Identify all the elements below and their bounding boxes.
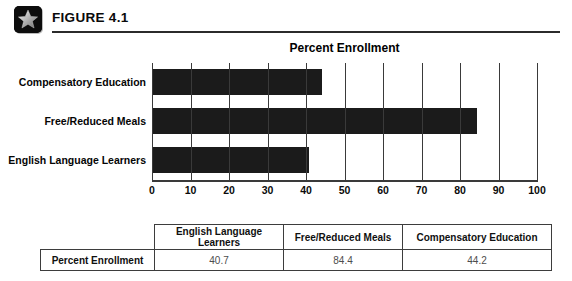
gridline (537, 63, 538, 180)
x-tick-label: 30 (248, 184, 288, 196)
table-header-english-language-learners: English Language Learners (155, 225, 284, 250)
table-row-label: Percent Enrollment (41, 250, 155, 271)
gridline (460, 63, 461, 180)
table-cell-free-reduced-meals: 84.4 (284, 250, 403, 271)
x-tick-label: 60 (363, 184, 403, 196)
star-icon (14, 6, 42, 33)
gridline (383, 63, 384, 180)
gridline (152, 63, 153, 180)
plot-area (152, 63, 537, 180)
table-header-free-reduced-meals: Free/Reduced Meals (284, 225, 403, 250)
gridline (306, 63, 307, 180)
header-divider (52, 31, 560, 33)
bar-compensatory-education (152, 69, 322, 95)
bar-english-language-learners (152, 147, 309, 173)
x-axis-line (152, 180, 538, 182)
x-tick-label: 10 (171, 184, 211, 196)
gridline (229, 63, 230, 180)
table-header-row: English Language Learners Free/Reduced M… (41, 225, 552, 250)
table-cell-english-language-learners: 40.7 (155, 250, 284, 271)
figure-header: FIGURE 4.1 (0, 0, 572, 36)
bar-free-reduced-meals (152, 108, 477, 134)
table-cell-compensatory-education: 44.2 (403, 250, 552, 271)
x-tick-label: 40 (286, 184, 326, 196)
x-tick-label: 50 (325, 184, 365, 196)
table-row: Percent Enrollment 40.7 84.4 44.2 (41, 250, 552, 271)
x-tick-label: 70 (402, 184, 442, 196)
category-label: Compensatory Education (0, 76, 146, 88)
x-tick-label: 20 (209, 184, 249, 196)
data-table: English Language Learners Free/Reduced M… (40, 224, 552, 271)
table-corner-cell (41, 225, 155, 250)
chart-title: Percent Enrollment (152, 41, 537, 55)
gridline (345, 63, 346, 180)
figure-label: FIGURE 4.1 (52, 10, 129, 25)
bar-chart: Percent Enrollment Compensatory Educatio… (0, 36, 572, 216)
gridline (268, 63, 269, 180)
gridline (191, 63, 192, 180)
gridline (499, 63, 500, 180)
x-tick-label: 90 (479, 184, 519, 196)
table-header-compensatory-education: Compensatory Education (403, 225, 552, 250)
category-label: Free/Reduced Meals (0, 115, 146, 127)
x-tick-label: 0 (132, 184, 172, 196)
x-tick-label: 80 (440, 184, 480, 196)
x-tick-label: 100 (517, 184, 557, 196)
gridline (422, 63, 423, 180)
category-label: English Language Learners (0, 154, 146, 166)
